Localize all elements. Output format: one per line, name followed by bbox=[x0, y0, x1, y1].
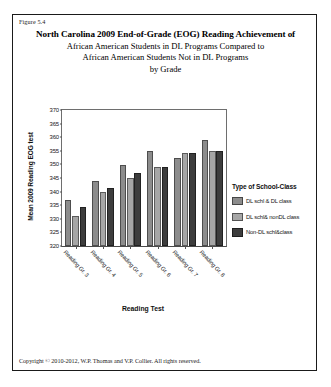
copyright-notice: Copyright © 2010-2012, W.P. Thomas and V… bbox=[19, 357, 201, 364]
chart-title-line-4: by Grade bbox=[13, 64, 318, 76]
bar bbox=[134, 173, 141, 246]
x-axis-tick-mark bbox=[158, 246, 159, 249]
plot-wrapper: Mean 2009 Reading EOG test 3203253303353… bbox=[13, 103, 318, 333]
bar bbox=[209, 151, 216, 246]
y-axis-tick-label: 330 bbox=[49, 216, 59, 222]
legend-label: DL schl & DL class bbox=[246, 198, 292, 204]
x-axis-tick-label: Reading Gr. 6 bbox=[144, 249, 171, 278]
bar-group bbox=[117, 110, 144, 246]
bar bbox=[92, 181, 99, 246]
chart-title-line-3: African American Students Not in DL Prog… bbox=[13, 52, 318, 64]
legend-title: Type of School-Class bbox=[232, 183, 316, 190]
y-axis-tick-label: 350 bbox=[49, 161, 59, 167]
bar bbox=[189, 153, 196, 246]
figure-number-label: Figure 5.4 bbox=[19, 18, 45, 25]
bar bbox=[80, 207, 87, 246]
bar bbox=[162, 167, 169, 246]
bar bbox=[107, 188, 114, 246]
bar bbox=[154, 167, 161, 246]
legend-label: DL schl& nonDL class bbox=[246, 214, 299, 220]
bar bbox=[100, 192, 107, 246]
x-axis-tick-mark bbox=[76, 246, 77, 249]
bar-group bbox=[62, 110, 89, 246]
bar bbox=[174, 158, 181, 246]
x-axis-tick-label: Reading Gr. 3 bbox=[62, 249, 89, 278]
chart-title-line-1: North Carolina 2009 End-of-Grade (EOG) R… bbox=[13, 28, 318, 41]
legend-swatch bbox=[232, 197, 243, 205]
x-axis-tick-label: Reading Gr. 5 bbox=[117, 249, 144, 278]
bar-group bbox=[199, 110, 226, 246]
bar bbox=[65, 200, 72, 246]
x-axis-tick-label: Reading Gr. 4 bbox=[90, 249, 117, 278]
bar bbox=[72, 216, 79, 246]
legend-item: DL schl& nonDL class bbox=[232, 213, 316, 221]
y-axis-title: Mean 2009 Reading EOG test bbox=[27, 117, 34, 237]
bars-layer bbox=[62, 110, 226, 246]
y-axis-tick-label: 345 bbox=[49, 175, 59, 181]
chart-legend: Type of School-Class DL schl & DL classD… bbox=[232, 183, 316, 244]
legend-item: Non-DL schl&class bbox=[232, 228, 316, 236]
bar bbox=[182, 153, 189, 246]
x-axis-tick-mark bbox=[185, 246, 186, 249]
y-axis-tick-label: 370 bbox=[49, 107, 59, 113]
bar bbox=[120, 165, 127, 246]
y-axis-tick-label: 335 bbox=[49, 202, 59, 208]
bar bbox=[127, 178, 134, 246]
bar-group bbox=[89, 110, 116, 246]
y-axis-tick-label: 365 bbox=[49, 121, 59, 127]
x-axis-title: Reading Test bbox=[61, 305, 225, 312]
chart-title-line-2: African American Students in DL Programs… bbox=[13, 41, 318, 53]
bar-group bbox=[144, 110, 171, 246]
y-axis-tick-label: 340 bbox=[49, 189, 59, 195]
x-axis-tick-mark bbox=[130, 246, 131, 249]
y-axis-tick-label: 355 bbox=[49, 148, 59, 154]
bar bbox=[202, 140, 209, 246]
x-axis-tick-label: Reading Gr. 7 bbox=[172, 249, 199, 278]
figure-frame: Figure 5.4 North Carolina 2009 End-of-Gr… bbox=[12, 14, 317, 371]
legend-label: Non-DL schl&class bbox=[246, 229, 292, 235]
legend-items: DL schl & DL classDL schl& nonDL classNo… bbox=[232, 197, 316, 237]
x-axis-tick-mark bbox=[103, 246, 104, 249]
legend-swatch bbox=[232, 228, 243, 236]
y-axis-tick-label: 320 bbox=[49, 243, 59, 249]
y-axis-tick-label: 360 bbox=[49, 134, 59, 140]
y-axis-tick-label: 325 bbox=[49, 229, 59, 235]
bar bbox=[216, 151, 223, 246]
legend-swatch bbox=[232, 213, 243, 221]
bar bbox=[147, 151, 154, 246]
x-axis-tick-mark bbox=[212, 246, 213, 249]
plot-area: 320325330335340345350355360365370 Readin… bbox=[61, 109, 227, 247]
bar-group bbox=[171, 110, 198, 246]
chart-title: North Carolina 2009 End-of-Grade (EOG) R… bbox=[13, 28, 318, 76]
x-axis-tick-label: Reading Gr. 8 bbox=[199, 249, 226, 278]
legend-item: DL schl & DL class bbox=[232, 197, 316, 205]
